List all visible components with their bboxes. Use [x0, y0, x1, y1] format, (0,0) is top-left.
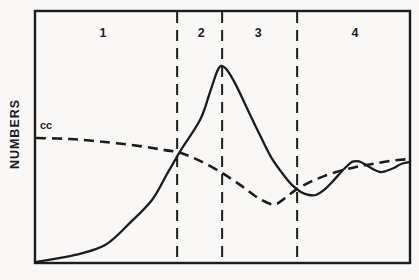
phase-label-4: 4: [351, 26, 358, 40]
line-chart: 1234cc: [0, 0, 419, 280]
population-dynamics-figure: NUMBERS 1234cc: [0, 0, 419, 280]
cc-annotation-label: cc: [40, 119, 52, 131]
phase-label-1: 1: [99, 26, 106, 40]
phase-label-3: 3: [255, 26, 262, 40]
phase-label-2: 2: [198, 26, 205, 40]
